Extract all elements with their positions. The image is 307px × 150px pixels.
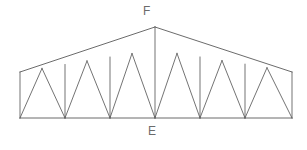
diagonal-r2-up	[200, 61, 222, 118]
diagonal-l2-up	[65, 61, 87, 118]
diagonal-l1-down	[42, 68, 65, 118]
node-label-e: E	[148, 125, 156, 137]
top-chord-left	[20, 27, 155, 72]
diagonal-r1-up	[155, 53, 177, 118]
diagonal-r1-down	[177, 53, 200, 118]
diagonal-r2-down	[222, 61, 245, 118]
node-label-f: F	[143, 5, 151, 17]
diagonal-l3-down	[132, 53, 155, 118]
diagonal-l3-up	[110, 53, 132, 118]
diagonal-l1-up	[20, 68, 42, 118]
truss-figure: F E	[0, 0, 307, 150]
diagonal-l2-down	[87, 61, 110, 118]
diagonal-r3-down	[267, 68, 292, 118]
diagonal-r3-up	[245, 68, 267, 118]
